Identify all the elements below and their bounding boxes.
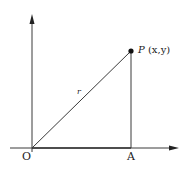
polar-coordinates-diagram: O A r P (x,y): [0, 0, 181, 169]
x-axis-arrow-icon: [169, 146, 179, 151]
point-p-coords: (x,y): [148, 44, 170, 55]
hypotenuse-op: [32, 51, 131, 148]
point-p-name: P: [138, 44, 145, 55]
radius-label: r: [77, 88, 81, 96]
point-p-label: P (x,y): [138, 45, 170, 55]
foot-label: A: [127, 151, 135, 162]
y-axis: [30, 14, 35, 152]
origin-label: O: [22, 151, 31, 162]
point-p-dot-icon: [128, 48, 133, 53]
y-axis-arrow-icon: [30, 14, 35, 24]
diagram-canvas: [0, 0, 181, 169]
